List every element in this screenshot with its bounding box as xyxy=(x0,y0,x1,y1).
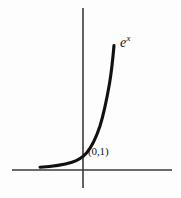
function-exponent-letter: x xyxy=(126,33,130,43)
exponential-function-figure: ex (0,1) xyxy=(0,0,181,198)
graph-canvas xyxy=(0,0,181,198)
curve-function-label: ex xyxy=(120,34,131,50)
intercept-point-label: (0,1) xyxy=(88,146,109,157)
